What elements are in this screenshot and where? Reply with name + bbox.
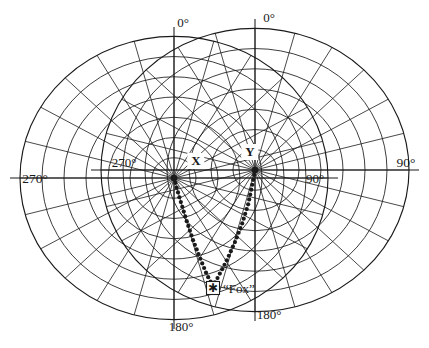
station-label-x: X [187,153,204,169]
axis-label-x-zero: 0° [177,16,189,29]
figure-canvas: ✱ 0°0°90°90°270°270°180°180° X Y “Fox” [0,0,429,348]
svg-text:✱: ✱ [208,281,218,295]
axis-label-y-twoseventy-inner: 270° [112,156,137,169]
axis-label-y-ninety-outer: 90° [397,156,416,170]
station-label-y: Y [241,144,258,160]
fox-marker-group: ✱ [207,281,220,295]
fox-target-label: “Fox” [223,282,255,295]
axis-label-y-zero: 0° [263,11,275,24]
polar-plot-svg: ✱ [0,0,429,348]
axis-label-y-oneeighty: 180° [257,308,282,321]
axis-label-x-oneeighty: 180° [169,320,194,333]
axis-label-x-twoseventy-outer: 270° [22,172,48,186]
axis-label-x-ninety-inner: 90° [306,172,324,185]
